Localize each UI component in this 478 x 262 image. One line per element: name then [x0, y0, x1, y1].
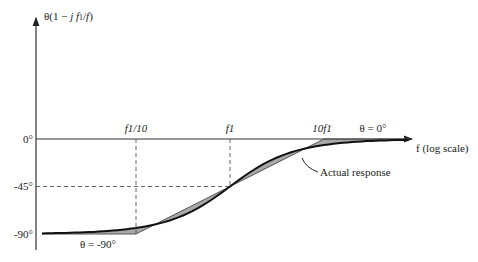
y-tick-90: -90°	[14, 228, 33, 240]
x-tick-f1: f1	[226, 122, 235, 134]
y-tick-0: 0°	[23, 133, 33, 145]
theta-minus90-annotation: θ = -90°	[80, 238, 116, 250]
guide-lines	[36, 139, 230, 234]
x-tick-10f1: 10f1	[312, 122, 332, 134]
x-tick-f1-over-10: f1/10	[125, 122, 148, 134]
bode-phase-diagram: θ(1 − j f1/f) 0° -45° -90° f1/10 f1 10f1…	[0, 0, 478, 262]
actual-response-label: Actual response	[320, 166, 391, 178]
theta-zero-annotation: θ = 0°	[360, 122, 387, 134]
y-tick-45: -45°	[14, 180, 33, 192]
actual-response-pointer	[302, 158, 318, 172]
y-axis-label: θ(1 − j f1/f)	[44, 10, 93, 23]
x-axis-label: f (log scale)	[416, 142, 469, 155]
